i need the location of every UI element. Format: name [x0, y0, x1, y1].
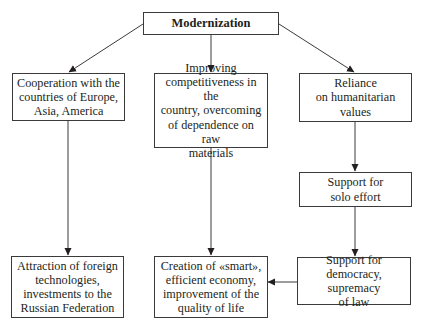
node-democracy: Support for democracy, supremacy of law — [297, 257, 411, 305]
node-competitiveness: Improving competitiveness in the country… — [154, 73, 268, 148]
node-solo-effort-label: Support for solo effort — [328, 175, 384, 203]
node-smart-economy-label: Creation of «smart», efficient economy, … — [161, 259, 262, 316]
node-cooperation-label: Cooperation with the countries of Europe… — [17, 76, 120, 119]
node-modernization: Modernization — [143, 12, 279, 35]
node-humanitarian-label: Reliance on humanitarian values — [316, 76, 396, 119]
node-competitiveness-label: Improving competitiveness in the country… — [158, 61, 264, 160]
node-humanitarian: Reliance on humanitarian values — [299, 73, 412, 122]
node-attraction-label: Attraction of foreign technologies, inve… — [17, 259, 118, 316]
node-democracy-label: Support for democracy, supremacy of law — [301, 253, 407, 310]
node-modernization-label: Modernization — [171, 16, 250, 30]
node-smart-economy: Creation of «smart», efficient economy, … — [154, 256, 268, 318]
node-solo-effort: Support for solo effort — [299, 172, 412, 207]
node-cooperation: Cooperation with the countries of Europe… — [12, 73, 125, 121]
node-attraction: Attraction of foreign technologies, inve… — [11, 256, 124, 318]
arrow-modernization-to-humanitarian — [279, 24, 354, 72]
diagram-canvas: Modernization Cooperation with the count… — [0, 0, 423, 328]
arrow-modernization-to-cooperation — [69, 24, 143, 72]
